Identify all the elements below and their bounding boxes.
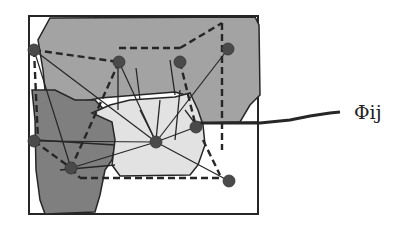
node-n8: [65, 162, 77, 174]
node-n9: [223, 175, 235, 187]
node-n2: [113, 56, 125, 68]
node-n7: [190, 121, 202, 133]
voronoi-network-diagram: [0, 0, 405, 239]
phi-ij-label: Φij: [354, 101, 382, 123]
node-n6: [150, 136, 162, 148]
node-n3: [174, 56, 186, 68]
node-n4: [222, 43, 234, 55]
node-n1: [28, 44, 40, 56]
node-n5: [28, 135, 40, 147]
